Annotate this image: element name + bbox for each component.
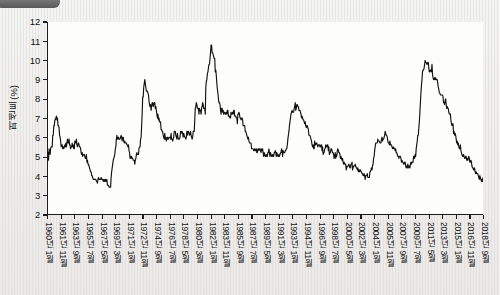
x-tick-label: 1980년 3월: [193, 222, 205, 264]
y-tick-label: 3: [35, 191, 43, 201]
x-tick-label: 2000년 5월: [343, 222, 355, 264]
unemployment-rate-chart: 퍼센트(%) 23456789101112 1960년 1월1961년 11월1…: [0, 0, 500, 295]
x-tick-mark: [156, 215, 157, 219]
y-tick-label: 7: [35, 114, 43, 124]
y-tick-10: 10: [0, 55, 47, 67]
y-tick-label: 9: [35, 75, 43, 85]
y-tick-12: 12: [0, 16, 47, 28]
y-tick-9: 9: [0, 74, 47, 86]
y-tick-4: 4: [0, 170, 47, 182]
x-tick-mark: [320, 215, 321, 219]
x-tick-label: 1960년 1월: [43, 222, 55, 264]
x-tick-label: 1961년 11월: [57, 222, 69, 267]
y-tick-label: 11: [31, 37, 43, 47]
x-tick-mark: [347, 215, 348, 219]
x-tick-label: 2018년 9월: [479, 222, 491, 264]
y-tick-label: 5: [35, 152, 43, 162]
x-tick-mark: [142, 215, 143, 219]
x-tick-label: 2002년 3월: [356, 222, 368, 264]
x-tick-mark: [211, 215, 212, 219]
y-tick-3: 3: [0, 190, 47, 202]
x-tick-mark: [483, 215, 484, 219]
x-tick-label: 1991년 3월: [275, 222, 287, 264]
y-tick-label: 8: [35, 94, 43, 104]
x-tick-mark: [115, 215, 116, 219]
x-tick-label: 1971년 1월: [125, 222, 137, 264]
x-tick-label: 1976년 7월: [166, 222, 178, 264]
y-axis-ticks: 23456789101112: [0, 0, 47, 215]
x-tick-label: 2007년 9월: [397, 222, 409, 264]
x-tick-label: 1996년 9월: [316, 222, 328, 264]
y-tick-label: 4: [35, 172, 43, 182]
y-tick-label: 12: [30, 17, 43, 27]
x-tick-mark: [197, 215, 198, 219]
x-tick-label: 1972년 11월: [138, 222, 150, 267]
x-tick-mark: [456, 215, 457, 219]
x-axis-ticks: 1960년 1월1961년 11월1963년 9월1965년 7월1967년 5…: [47, 215, 483, 295]
y-tick-2: 2: [0, 209, 47, 221]
x-tick-mark: [360, 215, 361, 219]
x-tick-label: 2015년 1월: [452, 222, 464, 264]
x-tick-label: 2013년 3월: [438, 222, 450, 264]
x-tick-label: 1969년 3월: [111, 222, 123, 264]
x-tick-mark: [279, 215, 280, 219]
x-tick-label: 2016년 11월: [465, 222, 477, 267]
y-tick-label: 10: [30, 56, 43, 66]
x-tick-mark: [374, 215, 375, 219]
x-tick-mark: [265, 215, 266, 219]
x-tick-mark: [306, 215, 307, 219]
x-tick-mark: [129, 215, 130, 219]
y-tick-7: 7: [0, 113, 47, 125]
unemployment-line-series: [48, 22, 483, 214]
x-tick-label: 2011년 5월: [425, 222, 437, 263]
x-tick-mark: [183, 215, 184, 219]
x-tick-label: 1963년 9월: [70, 222, 82, 264]
x-tick-mark: [415, 215, 416, 219]
x-tick-label: 1978년 5월: [179, 222, 191, 264]
x-tick-mark: [292, 215, 293, 219]
y-tick-label: 6: [35, 133, 43, 143]
x-tick-mark: [224, 215, 225, 219]
x-tick-mark: [429, 215, 430, 219]
y-tick-label: 2: [35, 210, 43, 220]
y-tick-6: 6: [0, 132, 47, 144]
x-tick-label: 1994년 11월: [302, 222, 314, 267]
x-tick-label: 1965년 7월: [84, 222, 96, 264]
x-tick-mark: [170, 215, 171, 219]
y-tick-11: 11: [0, 35, 47, 47]
x-tick-mark: [47, 215, 48, 219]
y-tick-5: 5: [0, 151, 47, 163]
x-tick-label: 2004년 1월: [370, 222, 382, 264]
x-tick-label: 1993년 1월: [288, 222, 300, 264]
x-tick-label: 1985년 9월: [234, 222, 246, 264]
x-tick-mark: [74, 215, 75, 219]
x-tick-mark: [333, 215, 334, 219]
x-tick-label: 1974년 9월: [152, 222, 164, 264]
x-tick-mark: [469, 215, 470, 219]
x-tick-mark: [388, 215, 389, 219]
x-tick-mark: [88, 215, 89, 219]
series-polyline: [48, 45, 483, 187]
y-tick-8: 8: [0, 93, 47, 105]
x-tick-mark: [442, 215, 443, 219]
x-tick-mark: [401, 215, 402, 219]
x-tick-label: 1989년 5월: [261, 222, 273, 264]
x-tick-mark: [251, 215, 252, 219]
x-tick-label: 2005년 11월: [384, 222, 396, 267]
x-tick-mark: [102, 215, 103, 219]
x-tick-mark: [238, 215, 239, 219]
x-tick-label: 2009년 7월: [411, 222, 423, 264]
x-tick-label: 1982년 1월: [207, 222, 219, 264]
x-tick-label: 1998년 7월: [329, 222, 341, 264]
x-tick-label: 1983년 11월: [220, 222, 232, 267]
x-tick-label: 1987년 7월: [247, 222, 259, 264]
x-tick-mark: [61, 215, 62, 219]
x-tick-label: 1967년 5월: [98, 222, 110, 264]
plot-area: [47, 22, 483, 215]
